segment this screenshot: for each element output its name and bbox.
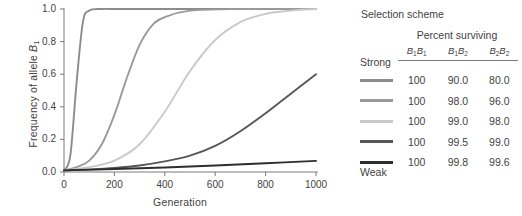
legend-value: 90.0 (437, 74, 478, 86)
y-tick-label: 0.0 (26, 166, 56, 177)
legend-value: 99.0 (479, 136, 520, 148)
legend-swatch-cell (358, 161, 396, 164)
legend-value-cells: 10099.899.6 (396, 156, 520, 168)
y-tick-label: 0.8 (26, 36, 56, 47)
x-tick-label: 1000 (296, 179, 336, 190)
legend-swatch-cell (358, 120, 396, 123)
legend-title: Selection scheme (361, 8, 444, 20)
x-tick-label: 0 (44, 179, 84, 190)
legend-value-cells: 10099.599.0 (396, 136, 520, 148)
legend-column-headers: B1B1B1B2B2B2 (396, 45, 520, 56)
legend-value: 99.5 (437, 136, 478, 148)
legend-swatch-cell (358, 79, 396, 82)
y-tick-label: 1.0 (26, 3, 56, 14)
x-tick-label: 200 (94, 179, 134, 190)
legend-value: 80.0 (479, 74, 520, 86)
legend-value-cells: 10099.098.0 (396, 115, 520, 127)
legend-value: 100 (396, 74, 437, 86)
legend-color-swatch (360, 140, 393, 143)
legend-value: 99.0 (437, 115, 478, 127)
y-tick-label: 0.2 (26, 133, 56, 144)
legend-panel: Selection scheme Percent surviving B1B1B… (358, 0, 522, 216)
axis-lines (64, 8, 318, 172)
x-tick-label: 400 (145, 179, 185, 190)
legend-value-cells: 10090.080.0 (396, 74, 520, 86)
percent-surviving-title: Percent surviving (396, 29, 518, 41)
x-axis-title: Generation (110, 196, 250, 208)
legend-value: 100 (396, 136, 437, 148)
legend-color-swatch (360, 79, 393, 82)
legend-color-swatch (360, 161, 393, 164)
legend-row: 10098.096.0 (358, 91, 522, 112)
legend-value: 100 (396, 156, 437, 168)
series-line-4 (64, 74, 316, 170)
weak-selection-label: Weak (360, 166, 387, 178)
legend-color-swatch (360, 120, 393, 123)
legend-swatch-cell (358, 140, 396, 143)
chart-panel: Frequency of allele B1 Generation 0.00.2… (0, 0, 356, 216)
legend-column-header: B1B1 (396, 45, 437, 56)
figure-root: Frequency of allele B1 Generation 0.00.2… (0, 0, 522, 216)
strong-selection-label: Strong (360, 56, 391, 68)
legend-value: 100 (396, 95, 437, 107)
legend-column-header: B2B2 (479, 45, 520, 56)
series-line-2 (64, 9, 316, 170)
legend-value: 100 (396, 115, 437, 127)
legend-column-header: B1B2 (437, 45, 478, 56)
legend-rows: 10090.080.010098.096.010099.098.010099.5… (358, 70, 522, 173)
legend-row: 10099.098.0 (358, 111, 522, 132)
legend-color-swatch (360, 99, 393, 102)
series-line-5 (64, 161, 316, 170)
y-tick-label: 0.4 (26, 101, 56, 112)
legend-row: 10090.080.0 (358, 70, 522, 91)
legend-header-rule (398, 60, 518, 61)
legend-value: 96.0 (479, 95, 520, 107)
legend-row: 10099.599.0 (358, 132, 522, 153)
legend-value: 99.8 (437, 156, 478, 168)
legend-value: 98.0 (479, 115, 520, 127)
x-tick-label: 600 (195, 179, 235, 190)
curves (64, 9, 316, 170)
y-tick-label: 0.6 (26, 68, 56, 79)
legend-value: 98.0 (437, 95, 478, 107)
legend-value-cells: 10098.096.0 (396, 95, 520, 107)
x-tick-label: 800 (246, 179, 286, 190)
legend-swatch-cell (358, 99, 396, 102)
legend-value: 99.6 (479, 156, 520, 168)
